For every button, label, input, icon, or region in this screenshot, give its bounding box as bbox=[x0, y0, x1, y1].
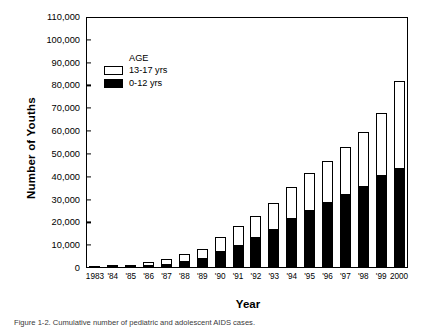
bar-group bbox=[250, 216, 261, 268]
bar-segment-13-17 bbox=[233, 226, 244, 247]
bar-segment-0-12 bbox=[268, 230, 279, 268]
legend: AGE 13-17 yrs 0-12 yrs bbox=[104, 53, 167, 91]
bar-segment-13-17 bbox=[179, 254, 190, 262]
x-tick-label: '86 bbox=[143, 272, 154, 281]
legend-item-13-17: 13-17 yrs bbox=[104, 65, 167, 75]
x-tick-label: '92 bbox=[251, 272, 262, 281]
bar-segment-0-12 bbox=[179, 262, 190, 268]
bar-segment-13-17 bbox=[143, 262, 154, 266]
figure-caption: Figure 1-2. Cumulative number of pediatr… bbox=[14, 318, 414, 328]
bar-group bbox=[161, 259, 172, 268]
bar-group bbox=[179, 254, 190, 268]
bar-segment-0-12 bbox=[358, 187, 369, 268]
bar-segment-13-17 bbox=[304, 173, 315, 211]
x-tick-label: '84 bbox=[107, 272, 118, 281]
x-tick-label: '98 bbox=[358, 272, 369, 281]
bar-segment-13-17 bbox=[340, 147, 351, 195]
x-tick-label: '97 bbox=[340, 272, 351, 281]
bar-segment-0-12 bbox=[322, 203, 333, 268]
legend-label-13-17: 13-17 yrs bbox=[129, 65, 167, 75]
bar-group bbox=[358, 132, 369, 268]
bar-group bbox=[233, 226, 244, 268]
x-tick-label: '88 bbox=[179, 272, 190, 281]
legend-title: AGE bbox=[129, 53, 167, 63]
x-tick-label: '94 bbox=[286, 272, 297, 281]
bar-segment-0-12 bbox=[215, 252, 226, 268]
bar-group bbox=[268, 203, 279, 268]
x-tick-label: '91 bbox=[233, 272, 244, 281]
bar-segment-0-12 bbox=[394, 169, 405, 268]
bar-segment-13-17 bbox=[107, 265, 118, 267]
legend-swatch-filled-square bbox=[104, 79, 123, 88]
bar-segment-0-12 bbox=[376, 176, 387, 268]
x-tick-label: 2000 bbox=[390, 272, 408, 281]
bar-group bbox=[376, 113, 387, 268]
bar-segment-0-12 bbox=[340, 195, 351, 268]
bar-group bbox=[197, 249, 208, 268]
x-tick-label: '95 bbox=[304, 272, 315, 281]
bar-group bbox=[143, 262, 154, 268]
bar-segment-13-17 bbox=[197, 249, 208, 259]
legend-swatch-open-square bbox=[104, 66, 123, 75]
bar-segment-0-12 bbox=[233, 246, 244, 268]
bar-segment-13-17 bbox=[322, 161, 333, 203]
legend-label-0-12: 0-12 yrs bbox=[129, 78, 162, 88]
x-tick-label: '89 bbox=[197, 272, 208, 281]
bar-segment-0-12 bbox=[161, 265, 172, 268]
bar-segment-0-12 bbox=[197, 259, 208, 268]
bar-segment-13-17 bbox=[376, 113, 387, 176]
bar-group bbox=[286, 187, 297, 268]
bar-group bbox=[340, 147, 351, 268]
bar-segment-0-12 bbox=[250, 238, 261, 268]
legend-item-0-12: 0-12 yrs bbox=[104, 78, 167, 88]
bar-group bbox=[322, 161, 333, 268]
bar-group bbox=[89, 267, 100, 268]
bar-segment-13-17 bbox=[125, 265, 136, 267]
x-tick-label: '85 bbox=[125, 272, 136, 281]
bar-segment-13-17 bbox=[215, 237, 226, 252]
bar-group bbox=[394, 81, 405, 268]
bar-group bbox=[125, 265, 136, 268]
bar-segment-0-12 bbox=[143, 266, 154, 268]
bar-segment-13-17 bbox=[250, 216, 261, 239]
bar-segment-13-17 bbox=[268, 203, 279, 230]
figure-container: Number of Youths 010,00020,00030,00040,0… bbox=[0, 0, 423, 328]
x-tick-label: 1983 bbox=[86, 272, 104, 281]
bar-segment-0-12 bbox=[286, 219, 297, 268]
x-tick-label: '93 bbox=[268, 272, 279, 281]
bar-group bbox=[215, 237, 226, 268]
x-tick-label: '90 bbox=[215, 272, 226, 281]
x-tick-label: '99 bbox=[376, 272, 387, 281]
bar-segment-13-17 bbox=[286, 187, 297, 219]
bar-segment-0-12 bbox=[304, 211, 315, 268]
x-tick-label: '96 bbox=[322, 272, 333, 281]
x-axis-title: Year bbox=[88, 298, 408, 310]
x-tick-label: '87 bbox=[161, 272, 172, 281]
bar-segment-13-17 bbox=[394, 81, 405, 169]
bar-group bbox=[304, 173, 315, 268]
bar-segment-13-17 bbox=[358, 132, 369, 187]
bar-segment-13-17 bbox=[89, 266, 100, 268]
bar-group bbox=[107, 267, 118, 268]
bar-segment-13-17 bbox=[161, 259, 172, 265]
